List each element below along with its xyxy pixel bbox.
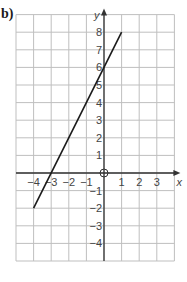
y-tick-label: −2 xyxy=(89,202,102,214)
y-tick-label: −1 xyxy=(89,185,102,197)
graph: xy−4−3−2−1123−4−3−2−112345678 xyxy=(0,0,187,282)
y-tick-label: 8 xyxy=(96,26,102,38)
x-tick-label: 2 xyxy=(136,176,142,188)
x-tick-label: 1 xyxy=(119,176,125,188)
y-tick-label: −3 xyxy=(89,220,102,232)
y-tick-label: 4 xyxy=(96,97,102,109)
x-tick-label: −2 xyxy=(63,176,76,188)
y-tick-label: 2 xyxy=(96,132,102,144)
y-tick-label: −4 xyxy=(89,237,102,249)
y-tick-label: 1 xyxy=(96,149,102,161)
x-tick-label: −4 xyxy=(27,176,40,188)
y-axis-arrow-icon xyxy=(101,9,107,16)
x-tick-label: 3 xyxy=(154,176,160,188)
y-tick-label: 3 xyxy=(96,114,102,126)
y-tick-label: 7 xyxy=(96,44,102,56)
x-axis-label: x xyxy=(175,176,182,188)
